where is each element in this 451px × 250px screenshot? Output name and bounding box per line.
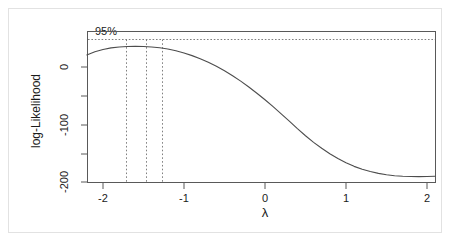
x-tick-label-minus1: -1 [169, 192, 199, 204]
plot-frame [88, 32, 436, 183]
x-tick-label-1: 1 [331, 192, 361, 204]
y-tick-label-0: 0 [58, 50, 70, 84]
y-axis-ticks [81, 67, 88, 182]
y-axis-title: log-Likelihood [29, 56, 43, 166]
x-tick-label-0: 0 [250, 192, 280, 204]
y-tick-label-minus100: -100 [58, 108, 70, 142]
x-tick-label-minus2: -2 [88, 192, 118, 204]
x-tick-label-2: 2 [412, 192, 442, 204]
figure-card: 95% 0 -10 [8, 8, 442, 233]
y-tick-label-minus200: -200 [58, 165, 70, 199]
log-likelihood-curve [87, 46, 435, 176]
x-axis-ticks [103, 183, 427, 190]
x-axis-title: λ [225, 205, 305, 220]
